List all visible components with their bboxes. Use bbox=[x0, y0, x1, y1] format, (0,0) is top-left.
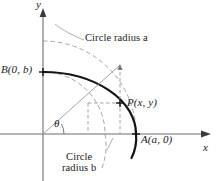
point-label-b: B(0, b) bbox=[1, 64, 32, 76]
circle-a-caption-leader bbox=[55, 24, 84, 40]
caption-circle-radius-a: Circle radius a bbox=[85, 32, 148, 43]
x-axis-label: x bbox=[203, 142, 208, 154]
point-label-a-text: A(a, 0) bbox=[141, 133, 172, 145]
point-marker-B bbox=[39, 68, 47, 76]
caption-circle-radius-b-line2: radius b bbox=[62, 162, 96, 173]
y-axis-label: y bbox=[36, 0, 41, 11]
circle-b-caption-leader bbox=[107, 138, 113, 150]
theta-arc bbox=[62, 124, 65, 134]
point-label-b-text: B(0, b) bbox=[1, 63, 32, 75]
caption-circle-radius-b-line1: Circle bbox=[62, 151, 96, 162]
point-marker-P bbox=[116, 99, 124, 107]
x-axis-arrowhead bbox=[201, 131, 211, 138]
figure-canvas bbox=[0, 0, 217, 181]
point-marker-A bbox=[132, 130, 140, 138]
ellipse-figure: y x B(0, b) P(x, y) A(a, 0) Circle radiu… bbox=[0, 0, 217, 181]
theta-label: θ bbox=[54, 118, 60, 130]
point-label-p: P(x, y) bbox=[127, 97, 157, 109]
point-label-a: A(a, 0) bbox=[141, 134, 172, 146]
caption-circle-radius-b: Circle radius b bbox=[62, 151, 96, 173]
circle-radius-b-arc-extension bbox=[102, 134, 107, 169]
point-label-p-text: P(x, y) bbox=[127, 96, 157, 108]
